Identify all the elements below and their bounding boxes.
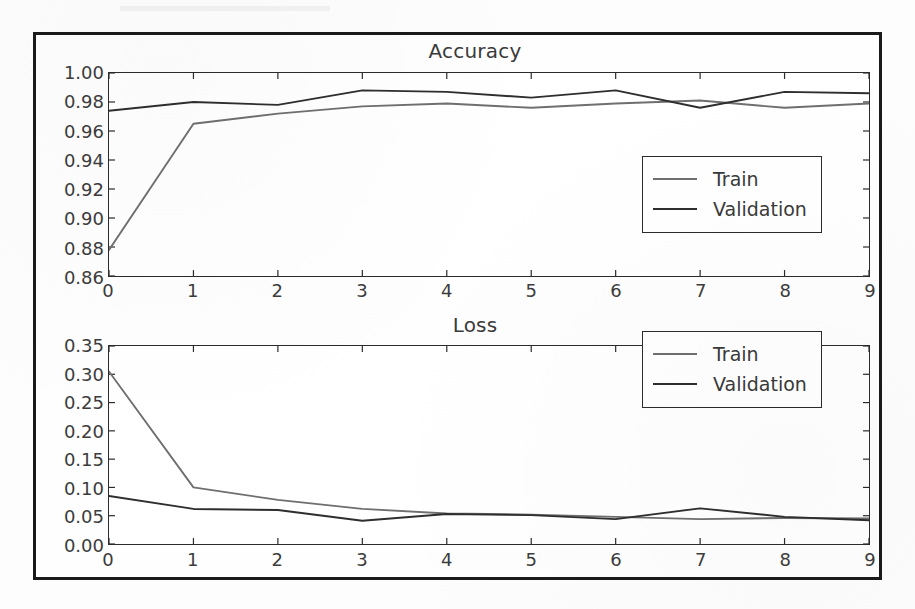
loss-x-axis-ticks: 0 1 2 3 4 5 6 7 8 9 [108,549,870,575]
y-tick-label: 0.10 [46,477,104,498]
y-tick-label: 0.30 [46,363,104,384]
legend-line-swatch-train-icon [653,353,697,355]
x-tick-label: 6 [610,280,621,301]
x-tick-label: 3 [356,549,367,570]
accuracy-x-axis-ticks: 0 1 2 3 4 5 6 7 8 9 [108,280,870,306]
legend-line-swatch-validation-icon [653,208,697,210]
scan-artifact [120,6,330,11]
x-tick-label: 8 [780,549,791,570]
y-tick-label: 0.05 [46,506,104,527]
x-tick-label: 6 [610,549,621,570]
x-tick-label: 9 [864,549,875,570]
legend-label-train: Train [713,343,759,365]
y-tick-label: 0.15 [46,449,104,470]
accuracy-subplot: Accuracy 1.00 0.98 0.96 0.94 0.92 0.90 0… [42,39,878,307]
x-tick-label: 9 [864,280,875,301]
y-tick-label: 0.86 [46,267,104,288]
legend-entry-validation: Validation [653,369,807,399]
y-tick-label: 0.00 [46,535,104,556]
x-tick-label: 2 [272,549,283,570]
x-tick-label: 4 [441,280,452,301]
x-tick-label: 1 [187,280,198,301]
y-tick-label: 0.25 [46,392,104,413]
legend-label-validation: Validation [713,198,807,220]
x-tick-label: 0 [102,280,113,301]
legend-entry-validation: Validation [653,194,807,224]
x-tick-label: 5 [526,280,537,301]
y-tick-label: 0.35 [46,335,104,356]
x-tick-label: 1 [187,549,198,570]
y-tick-label: 0.96 [46,120,104,141]
legend-label-validation: Validation [713,373,807,395]
x-tick-label: 2 [272,280,283,301]
accuracy-y-axis-ticks: 1.00 0.98 0.96 0.94 0.92 0.90 0.88 0.86 [42,72,104,277]
x-tick-label: 7 [695,549,706,570]
y-tick-label: 0.90 [46,208,104,229]
y-tick-label: 0.92 [46,179,104,200]
figure-border: Accuracy 1.00 0.98 0.96 0.94 0.92 0.90 0… [33,32,882,580]
y-tick-label: 0.98 [46,91,104,112]
legend-line-swatch-train-icon [653,178,697,180]
loss-y-axis-ticks: 0.35 0.30 0.25 0.20 0.15 0.10 0.05 0.00 [42,345,104,545]
y-tick-label: 0.94 [46,149,104,170]
loss-legend: Train Validation [642,331,822,408]
x-tick-label: 4 [441,549,452,570]
y-tick-label: 0.88 [46,237,104,258]
y-tick-label: 0.20 [46,420,104,441]
accuracy-legend: Train Validation [642,156,822,233]
x-tick-label: 3 [356,280,367,301]
series-line-validation [109,90,869,110]
x-tick-label: 7 [695,280,706,301]
legend-entry-train: Train [653,339,807,369]
series-line-validation [109,496,869,521]
legend-line-swatch-validation-icon [653,383,697,385]
accuracy-chart-title: Accuracy [42,39,878,63]
legend-entry-train: Train [653,164,807,194]
legend-label-train: Train [713,168,759,190]
x-tick-label: 5 [526,549,537,570]
x-tick-label: 0 [102,549,113,570]
y-tick-label: 1.00 [46,62,104,83]
loss-subplot: Loss 0.35 0.30 0.25 0.20 0.15 0.10 0.05 … [42,313,878,575]
scanned-figure-page: Accuracy 1.00 0.98 0.96 0.94 0.92 0.90 0… [0,0,915,609]
x-tick-label: 8 [780,280,791,301]
